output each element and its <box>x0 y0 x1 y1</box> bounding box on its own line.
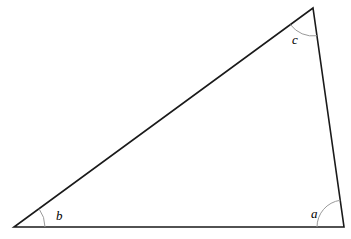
angle-label-a: a <box>311 207 318 220</box>
angle-label-c: c <box>292 33 298 46</box>
angle-label-b: b <box>56 209 63 222</box>
angle-arc-a <box>317 200 340 227</box>
triangle-figure: a b c <box>0 0 351 239</box>
angle-arc-b <box>39 209 45 227</box>
triangle-drawing <box>0 0 351 239</box>
